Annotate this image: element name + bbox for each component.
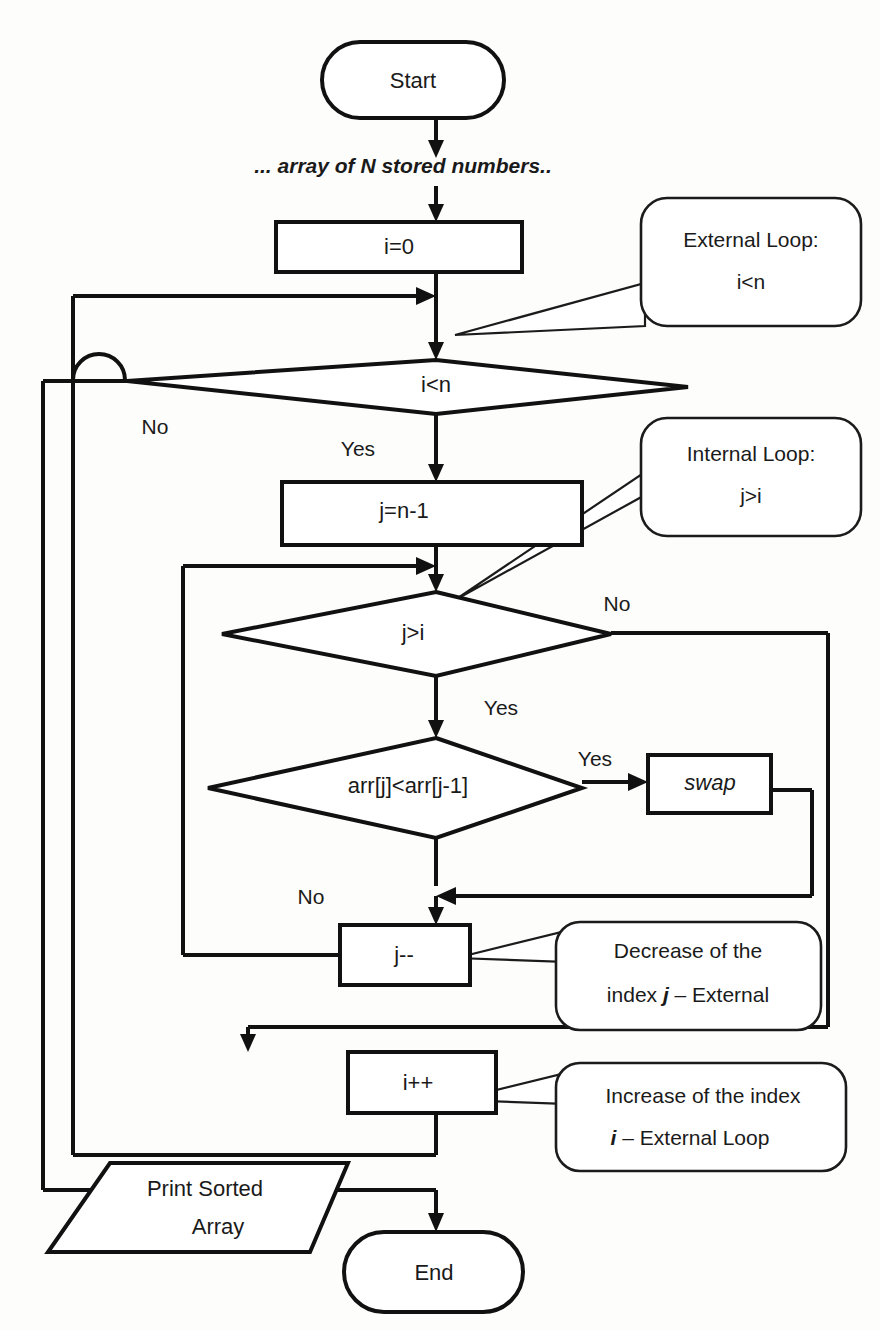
- node-cond-outer-label: i<n: [421, 372, 451, 397]
- branch-label-compare-no: No: [298, 885, 325, 908]
- connector-outer-yes: [428, 414, 444, 482]
- callout-external-loop[interactable]: External Loop: i<n: [641, 198, 861, 326]
- callout-increase-i-suffix: – External Loop: [616, 1126, 769, 1149]
- callout-decrease-j-line1: Decrease of the: [614, 939, 762, 962]
- callout-decrease-j-line2: index j – External: [607, 983, 769, 1006]
- connector-print-to-end: [322, 1190, 444, 1232]
- callout-internal-loop[interactable]: Internal Loop: j>i: [641, 418, 861, 536]
- node-increment-i[interactable]: i++: [348, 1052, 496, 1113]
- connector-inner-yes: [428, 676, 444, 738]
- node-cond-outer[interactable]: i<n: [127, 360, 688, 414]
- node-increment-i-label: i++: [403, 1070, 434, 1095]
- callout-external-loop-line2: i<n: [737, 270, 766, 293]
- node-end[interactable]: End: [344, 1232, 523, 1312]
- leader-decrease-j: [456, 930, 570, 962]
- node-swap-label: swap: [684, 770, 735, 795]
- node-cond-compare[interactable]: arr[j]<arr[j-1]: [208, 738, 582, 838]
- callout-increase-i-line2: i – External Loop: [611, 1126, 770, 1149]
- connector-increment-exit: [73, 1113, 436, 1155]
- node-start[interactable]: Start: [322, 42, 504, 118]
- node-init-i[interactable]: i=0: [276, 222, 522, 272]
- node-init-i-label: i=0: [384, 234, 414, 259]
- connector-compare-no: [428, 838, 444, 925]
- callout-internal-loop-line2: j>i: [739, 484, 762, 507]
- branch-label-inner-yes: Yes: [484, 696, 518, 719]
- callout-increase-i[interactable]: Increase of the index i – External Loop: [556, 1063, 846, 1171]
- node-print-label-line1: Print Sorted: [147, 1176, 263, 1201]
- node-init-j-label: j=n-1: [378, 498, 429, 523]
- connector-init-to-outer-cond: [428, 272, 444, 360]
- node-init-j[interactable]: j=n-1: [282, 482, 582, 545]
- callout-decrease-j-prefix: index: [607, 983, 663, 1006]
- callout-internal-loop-line1: Internal Loop:: [687, 442, 815, 465]
- node-cond-inner[interactable]: j>i: [222, 592, 611, 676]
- node-print[interactable]: Print Sorted Array: [48, 1163, 348, 1252]
- flowchart-canvas: Start ... array of N stored numbers.. i=…: [0, 0, 880, 1330]
- callout-decrease-j[interactable]: Decrease of the index j – External: [556, 922, 821, 1030]
- node-decrement-j-label: j--: [393, 942, 414, 967]
- node-print-label-line2: Array: [192, 1214, 245, 1239]
- connector-compare-yes: [582, 773, 648, 791]
- connector-outer-no: [43, 381, 127, 1199]
- flowchart-svg: Start ... array of N stored numbers.. i=…: [0, 0, 880, 1330]
- node-cond-inner-label: j>i: [401, 620, 425, 645]
- node-start-label: Start: [390, 68, 436, 93]
- branch-label-outer-no: No: [142, 415, 169, 438]
- node-end-label: End: [414, 1260, 453, 1285]
- branch-label-compare-yes: Yes: [578, 747, 612, 770]
- node-swap[interactable]: swap: [648, 755, 771, 813]
- callout-increase-i-line1: Increase of the index: [606, 1084, 801, 1107]
- connector-increment-loopback: [73, 287, 436, 1155]
- annotation-input-array: ... array of N stored numbers..: [254, 154, 552, 177]
- branch-label-inner-no: No: [604, 592, 631, 615]
- node-cond-compare-label: arr[j]<arr[j-1]: [348, 773, 468, 798]
- node-decrement-j[interactable]: j--: [340, 925, 470, 985]
- callout-decrease-j-suffix: – External: [669, 983, 769, 1006]
- callout-external-loop-line1: External Loop:: [683, 228, 818, 251]
- leader-external-loop: [455, 283, 645, 335]
- branch-label-outer-yes: Yes: [341, 437, 375, 460]
